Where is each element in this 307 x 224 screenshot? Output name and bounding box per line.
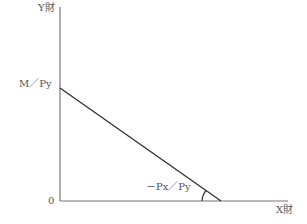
slope-label: －Px／Py [146, 182, 191, 192]
x-axis-label: X財 [276, 205, 293, 215]
budget-line [60, 88, 221, 201]
y-axis-label: Y財 [38, 3, 55, 13]
origin-label: 0 [48, 196, 54, 206]
y-intercept-label: M／Py [19, 79, 52, 89]
slope-angle-arc [202, 191, 206, 202]
